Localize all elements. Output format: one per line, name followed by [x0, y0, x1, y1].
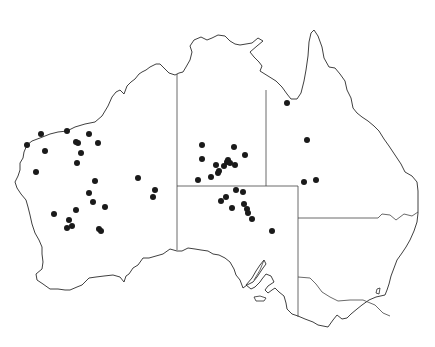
occurrence-dot: [241, 201, 247, 207]
occurrence-dot: [90, 199, 96, 205]
occurrence-dot: [284, 100, 290, 106]
occurrence-dot: [245, 210, 251, 216]
occurrence-dot: [249, 216, 255, 222]
occurrence-dot: [150, 194, 156, 200]
occurrence-dot: [199, 142, 205, 148]
occurrence-dot: [152, 187, 158, 193]
occurrence-dot: [51, 211, 57, 217]
occurrence-dot: [64, 225, 70, 231]
occurrence-dot: [304, 137, 310, 143]
occurrence-dot: [73, 207, 79, 213]
occurrence-dot: [24, 142, 30, 148]
occurrence-dot: [269, 228, 275, 234]
occurrence-dot: [218, 198, 224, 204]
kangaroo-island: [254, 296, 266, 301]
occurrence-dot: [199, 156, 205, 162]
occurrence-dot: [86, 131, 92, 137]
occurrence-dot: [313, 177, 319, 183]
occurrence-dot: [135, 175, 141, 181]
occurrence-dot: [195, 177, 201, 183]
occurrence-dot: [208, 174, 214, 180]
occurrence-dot: [78, 150, 84, 156]
occurrence-dot: [64, 128, 70, 134]
occurrence-dot: [74, 160, 80, 166]
occurrence-dot: [98, 228, 104, 234]
occurrence-dot: [38, 131, 44, 137]
occurrence-dot: [242, 152, 248, 158]
occurrence-dot: [301, 179, 307, 185]
australia-map: [0, 0, 435, 347]
occurrence-dot: [229, 205, 235, 211]
occurrence-dot: [92, 178, 98, 184]
occurrence-dot: [232, 162, 238, 168]
occurrence-dot: [95, 140, 101, 146]
occurrence-dot: [221, 163, 227, 169]
occurrence-dot: [231, 144, 237, 150]
occurrence-dot: [213, 162, 219, 168]
occurrence-dot: [223, 194, 229, 200]
australia-coastline: [15, 30, 418, 327]
occurrence-dot: [75, 140, 81, 146]
occurrence-dot: [33, 169, 39, 175]
occurrence-dot: [86, 190, 92, 196]
occurrence-dot: [42, 148, 48, 154]
occurrence-dot: [66, 217, 72, 223]
occurrence-dot: [102, 204, 108, 210]
occurrence-dot: [215, 170, 221, 176]
occurrence-dot: [233, 187, 239, 193]
occurrence-dot: [240, 189, 246, 195]
